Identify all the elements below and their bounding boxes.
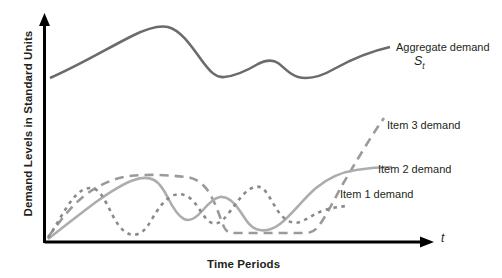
item1-demand-label: Item 1 demand — [340, 188, 413, 201]
series-aggregate-demand — [50, 26, 390, 78]
aggregate-demand-label: Aggregate demand — [396, 41, 490, 54]
aggregate-demand-symbol: St — [414, 55, 425, 73]
x-axis-symbol: t — [441, 232, 444, 245]
y-axis-title: Demand Levels in Standard Units — [22, 37, 35, 217]
y-axis-arrowhead — [39, 13, 50, 26]
x-axis-title: Time Periods — [207, 258, 280, 271]
series-item2-demand — [48, 167, 392, 239]
chart-figure: Demand Levels in Standard Units Time Per… — [0, 0, 502, 278]
item3-demand-label: Item 3 demand — [387, 119, 460, 132]
series-item1-demand — [48, 187, 346, 238]
x-axis-arrowhead — [420, 237, 434, 248]
item2-demand-label: Item 2 demand — [378, 163, 451, 176]
aggregate-symbol-subscript: t — [422, 61, 424, 71]
